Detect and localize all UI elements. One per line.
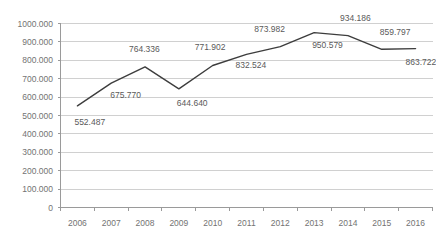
data-point-label: 934.186: [340, 13, 371, 23]
data-point-label: 552.487: [74, 117, 105, 127]
data-point-label: 644.640: [177, 98, 208, 108]
data-point-label: 832.524: [236, 60, 267, 70]
y-axis-tick-label: 900.000: [0, 37, 53, 47]
y-axis-tick-label: 0: [0, 203, 53, 213]
data-point-label: 873.982: [254, 24, 285, 34]
data-point-label: 950.579: [312, 40, 343, 50]
x-axis-tick-label: 2016: [396, 218, 436, 228]
y-axis-tick-label: 500.000: [0, 111, 53, 121]
y-axis-tick-label: 700.000: [0, 74, 53, 84]
y-axis-tick-label: 1000.000: [0, 19, 53, 29]
y-axis-tick-label: 400.000: [0, 129, 53, 139]
line-chart: 0100.000200.000300.000400.000500.000600.…: [0, 0, 436, 242]
data-point-label: 771.902: [195, 42, 226, 52]
y-axis-tick-label: 600.000: [0, 92, 53, 102]
y-axis-tick-label: 100.000: [0, 184, 53, 194]
data-point-label: 675.770: [110, 90, 141, 100]
y-axis-tick-label: 800.000: [0, 55, 53, 65]
gridlines: [61, 24, 433, 190]
data-point-label: 764.336: [129, 44, 160, 54]
y-axis-tick-label: 300.000: [0, 147, 53, 157]
chart-canvas: [0, 0, 436, 242]
data-point-label: 859.797: [380, 27, 411, 37]
y-axis-tick-label: 200.000: [0, 166, 53, 176]
data-point-label: 863.722: [406, 57, 436, 67]
